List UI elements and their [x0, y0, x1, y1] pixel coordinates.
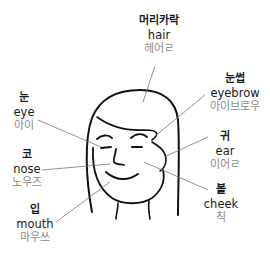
label-mouth: 입 mouth 마우쓰	[10, 203, 60, 245]
nose-pronunciation: 노우즈	[4, 176, 50, 190]
leader-mouth	[56, 182, 110, 222]
leader-hair	[143, 66, 155, 102]
hair-english: hair	[124, 28, 194, 42]
eyebrow-korean: 눈썹	[196, 72, 270, 86]
label-cheek: 볼 cheek 칙	[196, 183, 246, 225]
label-ear: 귀 ear 이어ㄹ	[200, 130, 250, 172]
eyebrow-right	[131, 134, 147, 138]
neck-right	[149, 201, 150, 219]
cheek-pronunciation: 칙	[196, 211, 246, 225]
mouth-korean: 입	[10, 203, 60, 217]
hair-korean: 머리카락	[124, 14, 194, 28]
eye-english: eye	[4, 105, 44, 119]
nose-shape	[114, 149, 124, 165]
leader-eye	[38, 120, 101, 147]
label-eye: 눈 eye 아이	[4, 91, 44, 133]
leader-nose	[42, 164, 110, 170]
eye-pronunciation: 아이	[4, 119, 44, 133]
ear-english: ear	[200, 144, 250, 158]
cheek-english: cheek	[196, 197, 246, 211]
ear-korean: 귀	[200, 130, 250, 144]
hair-pronunciation: 헤어ㄹ	[124, 42, 194, 56]
hair-outline	[87, 90, 179, 215]
label-nose: 코 nose 노우즈	[4, 148, 50, 190]
eye-left	[101, 147, 111, 148]
face-contour	[93, 148, 164, 203]
ear-pronunciation: 이어ㄹ	[200, 158, 250, 172]
neck-left	[116, 203, 118, 219]
eyebrow-english: eyebrow	[196, 86, 270, 100]
mouth-smile	[106, 172, 138, 179]
mouth-pronunciation: 마우쓰	[10, 231, 60, 245]
eyebrow-left	[97, 135, 112, 139]
eyebrow-pronunciation: 아이브로우	[196, 100, 270, 114]
mouth-english: mouth	[10, 217, 60, 231]
label-eyebrow: 눈썹 eyebrow 아이브로우	[196, 72, 270, 114]
nose-korean: 코	[4, 148, 50, 162]
nose-english: nose	[4, 162, 50, 176]
label-hair: 머리카락 hair 헤어ㄹ	[124, 14, 194, 56]
eye-korean: 눈	[4, 91, 44, 105]
cheek-korean: 볼	[196, 183, 246, 197]
